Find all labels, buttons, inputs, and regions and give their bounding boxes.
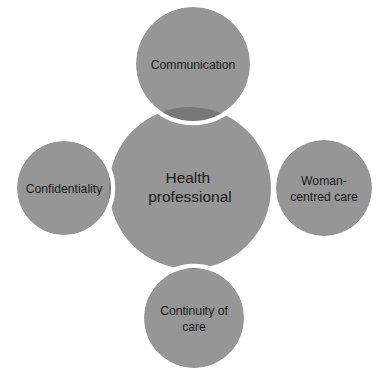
diagram-canvas: Health professional CommunicationWoman-c… xyxy=(0,0,390,383)
center-label-line-1: Health xyxy=(165,169,210,186)
satellite-label-communication: Communication xyxy=(151,58,236,72)
center-label-line-2: professional xyxy=(148,188,232,205)
satellite-label-line-1: Continuity of xyxy=(160,304,228,318)
venn-diagram: Health professional CommunicationWoman-c… xyxy=(0,0,390,383)
satellite-label-line-1: Woman- xyxy=(301,174,347,188)
satellite-label-line-1: Confidentiality xyxy=(26,182,103,196)
satellite-label-line-2: care xyxy=(182,320,206,334)
satellite-label-line-2: centred care xyxy=(290,190,358,204)
satellite-label-confidentiality: Confidentiality xyxy=(26,182,103,196)
satellite-label-line-1: Communication xyxy=(151,58,236,72)
